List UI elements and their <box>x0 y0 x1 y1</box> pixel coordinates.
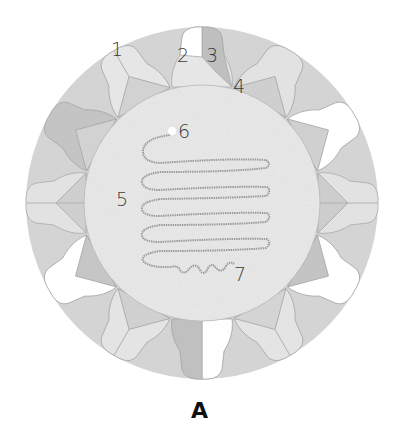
capsid <box>26 27 378 379</box>
label-3: 3 <box>206 46 218 65</box>
nucleic-acid-end-dot <box>168 127 176 135</box>
label-7: 7 <box>234 265 246 284</box>
label-1: 1 <box>111 40 123 59</box>
label-6: 6 <box>178 122 190 141</box>
label-5: 5 <box>116 190 128 209</box>
label-2: 2 <box>177 46 189 65</box>
virus-diagram <box>0 0 399 428</box>
figure-caption: A <box>0 398 399 423</box>
label-4: 4 <box>233 77 245 96</box>
